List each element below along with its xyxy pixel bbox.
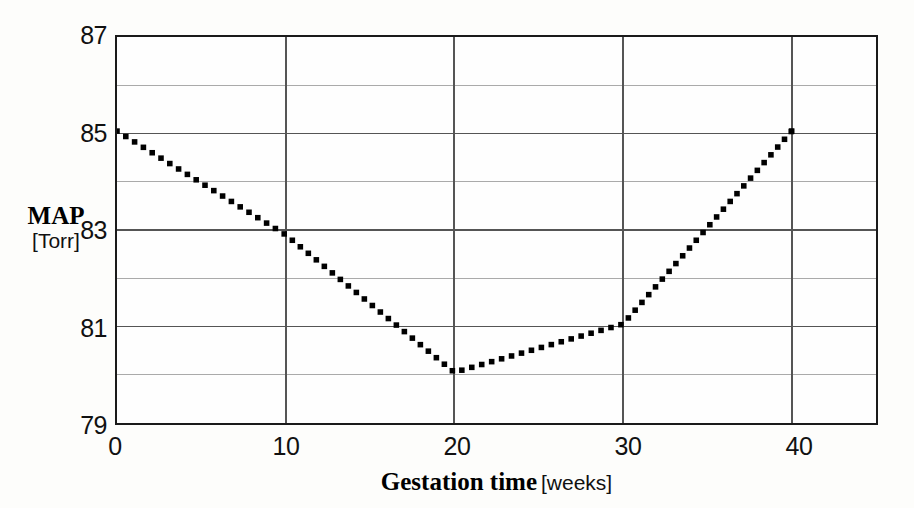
- data-dot: [167, 161, 173, 167]
- data-dot: [549, 342, 555, 348]
- data-dot: [727, 199, 733, 205]
- data-dot: [314, 257, 320, 263]
- data-dot: [378, 309, 384, 315]
- data-dot: [653, 284, 659, 290]
- data-dot: [714, 214, 720, 220]
- data-dot: [141, 145, 147, 151]
- data-dot: [687, 245, 693, 251]
- y-tick-label-87: 87: [0, 21, 107, 50]
- data-dot: [117, 128, 120, 134]
- data-dot: [211, 188, 217, 194]
- x-tick-label-0: 0: [75, 432, 155, 461]
- data-dot: [626, 315, 632, 321]
- data-dot: [578, 333, 584, 339]
- data-dot: [748, 175, 754, 181]
- data-dot: [588, 330, 594, 336]
- data-dot: [741, 183, 747, 189]
- series-dots-MAP: [117, 128, 794, 373]
- data-dot: [123, 134, 129, 140]
- data-dot: [646, 292, 652, 298]
- data-dot: [434, 355, 440, 361]
- x-tick-label-30: 30: [588, 432, 668, 461]
- data-dot: [608, 325, 614, 331]
- chart-figure: MAP [Torr] 87 85 83 81 79 0 10 20 30 40 …: [0, 0, 914, 508]
- data-dot: [149, 150, 155, 156]
- data-dot: [132, 139, 138, 145]
- data-dot: [639, 300, 645, 306]
- data-dot: [660, 276, 666, 282]
- data-dot: [479, 362, 485, 368]
- data-dot: [666, 269, 672, 275]
- data-dot: [618, 322, 624, 328]
- data-dot: [519, 350, 525, 356]
- data-dot: [558, 339, 564, 345]
- data-dot: [220, 193, 226, 199]
- x-tick-label-10: 10: [246, 432, 326, 461]
- data-dot: [469, 365, 475, 371]
- data-dot: [370, 303, 376, 309]
- data-dot: [193, 177, 199, 183]
- data-dot: [386, 316, 392, 322]
- data-dot: [229, 199, 235, 205]
- y-tick-label-85: 85: [0, 118, 107, 147]
- data-dot: [700, 230, 706, 236]
- data-dot: [255, 215, 261, 221]
- data-dot: [529, 348, 535, 354]
- data-dot: [450, 368, 456, 374]
- data-dot: [489, 359, 495, 365]
- data-dot: [632, 307, 638, 313]
- y-tick-label-81: 81: [0, 313, 107, 342]
- data-dot: [789, 128, 795, 134]
- data-dot: [442, 361, 448, 367]
- data-dot: [354, 290, 360, 296]
- data-dot: [734, 191, 740, 197]
- x-tick-label-20: 20: [417, 432, 497, 461]
- data-dot: [598, 328, 604, 334]
- data-dot: [568, 336, 574, 342]
- data-dot: [426, 348, 432, 354]
- plot-area: [115, 35, 878, 425]
- data-dot: [281, 231, 287, 237]
- data-dot: [768, 152, 774, 158]
- data-dot: [755, 168, 761, 174]
- data-dot: [264, 220, 270, 226]
- data-dot: [237, 204, 243, 210]
- data-series-map: [117, 37, 876, 423]
- data-dot: [185, 172, 191, 178]
- x-tick-label-40: 40: [759, 432, 839, 461]
- data-dot: [410, 335, 416, 341]
- data-dot: [362, 296, 368, 302]
- data-dot: [176, 166, 182, 172]
- data-dot: [499, 356, 505, 362]
- data-dot: [721, 206, 727, 212]
- x-axis-title-unit: [weeks]: [541, 471, 612, 494]
- data-dot: [290, 237, 296, 243]
- data-dot: [158, 155, 164, 161]
- data-dot: [761, 160, 767, 166]
- y-tick-label-83: 83: [0, 216, 107, 245]
- x-axis-title-main: Gestation time: [381, 468, 537, 495]
- data-dot: [782, 137, 788, 143]
- data-dot: [402, 329, 408, 335]
- x-axis-title: Gestation time[weeks]: [115, 468, 878, 496]
- data-dot: [459, 367, 465, 373]
- data-dot: [673, 261, 679, 267]
- data-dot: [330, 270, 336, 276]
- data-dot: [246, 210, 252, 216]
- data-dot: [707, 222, 713, 228]
- data-dot: [346, 283, 352, 289]
- data-dot: [693, 237, 699, 243]
- data-dot: [394, 322, 400, 328]
- data-dot: [273, 226, 279, 232]
- data-dot: [539, 345, 545, 351]
- data-dot: [775, 144, 781, 150]
- data-dot: [202, 182, 208, 188]
- data-dot: [418, 342, 424, 348]
- data-dot: [509, 353, 515, 359]
- data-dot: [338, 277, 344, 283]
- data-dot: [322, 264, 328, 270]
- data-dot: [680, 253, 686, 259]
- data-dot: [306, 251, 312, 257]
- data-dot: [298, 244, 304, 250]
